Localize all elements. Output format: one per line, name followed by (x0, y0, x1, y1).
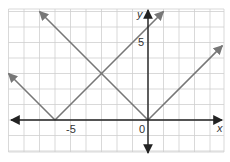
curve-0-right-ray (148, 46, 222, 120)
y-axis-label: y (136, 8, 144, 20)
curve-0-left-ray (40, 12, 149, 121)
y-tick-label-5: 5 (138, 36, 144, 48)
coordinate-plane: y x 5 -5 0 (0, 0, 230, 162)
axes (11, 10, 222, 153)
x-tick-label-neg5: -5 (66, 123, 76, 135)
curve-1-left-ray (9, 74, 56, 121)
graph-curves (9, 12, 223, 121)
grid-lines (9, 9, 225, 152)
x-axis-label: x (216, 122, 223, 134)
origin-label: 0 (139, 123, 145, 135)
curve-1-right-ray (55, 12, 164, 121)
